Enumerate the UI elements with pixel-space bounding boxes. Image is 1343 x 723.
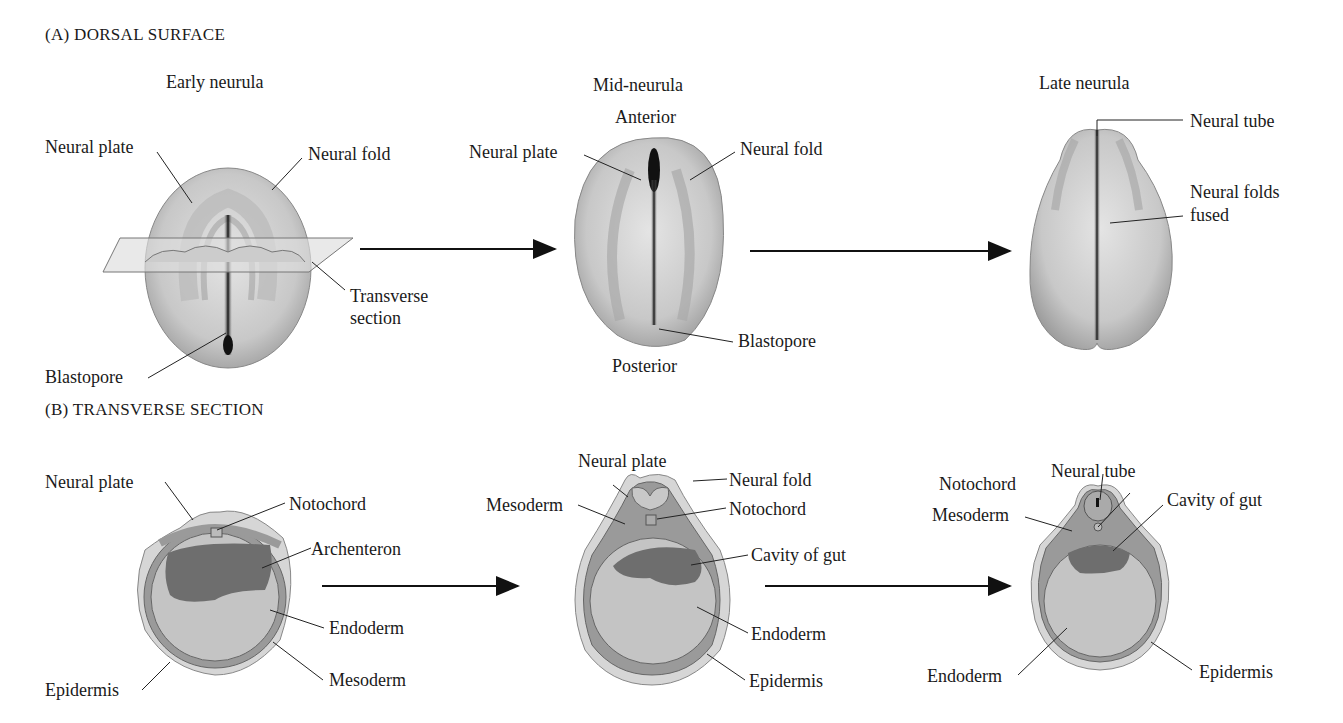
label-mesoderm: Mesoderm bbox=[932, 505, 1009, 525]
label-notochord: Notochord bbox=[729, 499, 806, 519]
panel-b-heading: (B) TRANSVERSE SECTION bbox=[45, 400, 264, 420]
label-posterior: Posterior bbox=[612, 356, 677, 376]
label-anterior: Anterior bbox=[615, 107, 676, 127]
panel-a-heading: (A) DORSAL SURFACE bbox=[45, 25, 225, 45]
label-neural-plate: Neural plate bbox=[45, 472, 133, 492]
label-endoderm: Endoderm bbox=[751, 624, 826, 644]
late-neurula-embryo bbox=[1030, 129, 1172, 349]
label-neural-plate: Neural plate bbox=[45, 137, 133, 157]
label-neural-tube: Neural tube bbox=[1051, 461, 1135, 481]
early-neurula-title: Early neurula bbox=[166, 72, 263, 92]
label-mesoderm: Mesoderm bbox=[329, 670, 406, 690]
label-neural-fold: Neural fold bbox=[740, 139, 822, 159]
label-endoderm: Endoderm bbox=[329, 618, 404, 638]
label-cavity-of-gut: Cavity of gut bbox=[751, 545, 846, 565]
label-blastopore: Blastopore bbox=[738, 331, 816, 351]
label-archenteron: Archenteron bbox=[311, 539, 401, 559]
mid-neurula-embryo bbox=[575, 138, 724, 347]
late-neurula-title: Late neurula bbox=[1039, 73, 1129, 93]
mid-neurula-title: Mid-neurula bbox=[593, 75, 683, 95]
mid-transverse-section bbox=[575, 474, 730, 685]
label-epidermis: Epidermis bbox=[45, 680, 119, 700]
label-neural-folds: Neural folds bbox=[1190, 182, 1279, 202]
early-transverse-section bbox=[138, 511, 291, 675]
label-fused: fused bbox=[1190, 205, 1229, 225]
label-notochord: Notochord bbox=[289, 494, 366, 514]
label-neural-tube: Neural tube bbox=[1190, 111, 1274, 131]
label-notochord: Notochord bbox=[939, 474, 1016, 494]
label-neural-fold: Neural fold bbox=[308, 144, 390, 164]
label-section: section bbox=[350, 308, 401, 328]
label-neural-plate: Neural plate bbox=[578, 451, 666, 471]
label-epidermis: Epidermis bbox=[749, 671, 823, 691]
label-transverse: Transverse bbox=[350, 286, 428, 306]
early-neurula-embryo bbox=[103, 168, 353, 368]
label-mesoderm: Mesoderm bbox=[486, 495, 563, 515]
label-neural-plate: Neural plate bbox=[469, 142, 557, 162]
label-neural-fold: Neural fold bbox=[729, 470, 811, 490]
label-cavity-of-gut: Cavity of gut bbox=[1167, 490, 1262, 510]
label-epidermis: Epidermis bbox=[1199, 662, 1273, 682]
label-blastopore: Blastopore bbox=[45, 367, 123, 387]
label-endoderm: Endoderm bbox=[927, 666, 1002, 686]
